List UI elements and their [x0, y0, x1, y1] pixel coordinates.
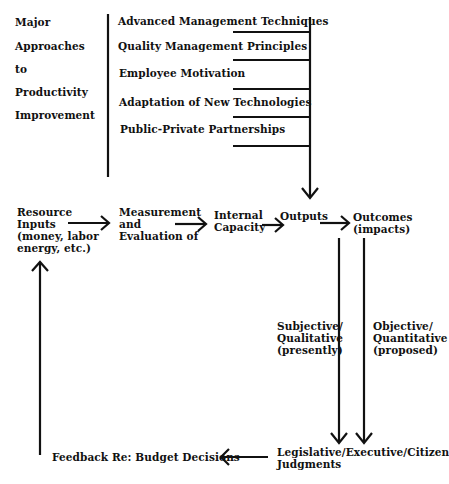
approach-item: Employee Motivation [119, 67, 245, 79]
feedback-label: Feedback Re: Budget Decisions [52, 451, 240, 463]
heading-line: Improvement [15, 109, 95, 121]
approach-item: Public-Private Partnerships [120, 123, 285, 135]
subjective-label: Subjective/ Qualitative (presently) [277, 320, 343, 356]
heading-line: to [15, 63, 27, 75]
measurement-node: Measurement and Evaluation of [119, 206, 201, 242]
approach-item: Advanced Management Techniques [118, 15, 328, 27]
heading-line: Approaches [15, 40, 85, 52]
outputs-node: Outputs [280, 210, 328, 222]
objective-label: Objective/ Quantitative (proposed) [373, 320, 448, 356]
outcomes-node: Outcomes (impacts) [353, 211, 413, 235]
approach-item: Adaptation of New Technologies [119, 96, 311, 108]
judgments-node: Legislative/Executive/Citizen Judgments [277, 446, 449, 470]
heading-line: Productivity [15, 86, 88, 98]
resource-inputs-node: Resource Inputs (money, labor energy, et… [17, 206, 99, 254]
approach-item: Quality Management Principles [118, 40, 307, 52]
internal-capacity-node: Internal Capacity [214, 209, 265, 233]
heading-line: Major [15, 16, 50, 28]
